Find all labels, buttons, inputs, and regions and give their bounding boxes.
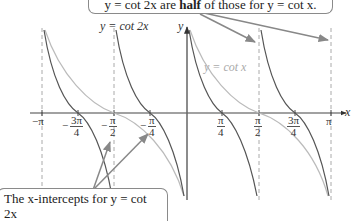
callout-x-intercepts: The x-intercepts for y = cot 2x are half… [0,188,168,221]
y-axis-label: y [178,19,183,34]
tick-pi-2: π2 [254,115,262,138]
label-cot-x: y = cot x [204,60,246,75]
label-cot-2x: y = cot 2x [100,19,148,34]
tick-pi: π [326,116,332,127]
tick-neg-pi-4: −π4 [148,115,156,138]
callout-asymptotes: y = cot 2x are half of those for y = cot… [88,0,333,14]
tick-3pi-4: 3π4 [287,115,300,138]
annotation-arrows [93,13,328,190]
x-axis-label: x [345,105,350,120]
tick-neg-3pi-4: −3π4 [70,115,83,138]
tick-neg-pi-2: −π2 [109,115,117,138]
tick-pi-4: π4 [217,115,225,138]
tick-neg-pi: −π [32,116,44,127]
